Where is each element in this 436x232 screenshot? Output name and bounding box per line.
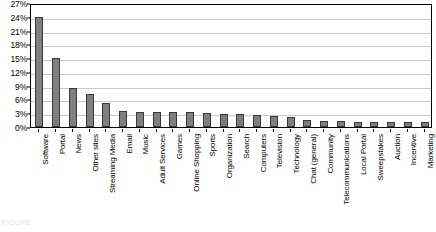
x-axis-tick-label: Email [126,134,134,154]
x-axis-tick-mark [424,129,425,132]
x-axis-tick-label: Community [327,134,335,174]
y-axis-tick-label: 12% [11,69,27,78]
bar [69,88,77,127]
bar [220,114,228,127]
x-axis-tick-mark [373,129,374,132]
x-axis-tick-mark [89,129,90,132]
x-axis-tick-mark [122,129,123,132]
y-axis-tick-label: 9% [15,82,27,91]
x-axis-tick-label: Search [243,134,251,159]
x-axis-tick-label: Incentive [410,134,418,165]
bar [186,112,194,127]
bar [387,122,395,128]
x-axis-tick-label: Auction [394,134,402,160]
x-axis-tick-mark [273,129,274,132]
y-axis-tick-label: 18% [11,41,27,50]
x-axis-tick-mark [357,129,358,132]
x-axis-tick-mark [256,129,257,132]
x-axis-tick-mark [189,129,190,132]
bar [35,17,43,127]
x-axis-tick-label: Adult Services [159,134,167,184]
bar [337,121,345,127]
plot-area [30,4,432,128]
x-axis-tick-label: Music [142,134,150,154]
bar [153,112,161,127]
x-axis-tick-label: Streaming Media [109,134,117,193]
bar [320,121,328,127]
x-axis-tick-mark [156,129,157,132]
x-axis-tick-mark [172,129,173,132]
bar [119,111,127,127]
x-axis-tick-label: Chat (general) [310,134,318,184]
bar [236,114,244,127]
bar [102,103,110,127]
y-axis-tick-label: 0% [15,124,27,133]
bar [52,58,60,127]
x-axis-tick-mark [55,129,56,132]
x-axis-tick-label: Marketing [427,134,435,168]
x-axis-tick-mark [306,129,307,132]
y-axis: 0%3%6%9%12%15%18%21%24%27% [0,4,30,128]
figure-caption: FIGURE [2,219,31,227]
y-axis-tick-label: 6% [15,96,27,105]
x-axis-tick-mark [38,129,39,132]
y-axis-tick-label: 27% [11,0,27,8]
bar [169,112,177,127]
x-axis-tick-mark [223,129,224,132]
x-axis-tick-mark [206,129,207,132]
x-axis-tick-label: Local Portal [360,134,368,175]
x-axis-tick-label: News [75,134,83,154]
y-axis-tick-label: 15% [11,55,27,64]
x-axis-tick-mark [390,129,391,132]
bar [136,112,144,127]
x-axis-tick-label: Organization [226,134,234,178]
y-axis-tick-label: 21% [11,27,27,36]
x-axis-labels: SoftwarePortalNewsOther sitesStreaming M… [30,129,432,227]
x-axis-tick-mark [239,129,240,132]
x-axis-tick-mark [290,129,291,132]
x-axis-tick-label: Sports [209,134,217,157]
x-axis-tick-mark [407,129,408,132]
bar [370,122,378,128]
y-axis-tick-label: 24% [11,14,27,23]
x-axis-tick-label: Television [276,134,284,168]
x-axis-tick-mark [340,129,341,132]
x-axis-tick-label: Portal [59,134,67,154]
bar [421,122,429,127]
x-axis-tick-mark [105,129,106,132]
x-axis-tick-label: Technology [293,134,301,173]
x-axis-tick-mark [323,129,324,132]
x-axis-tick-label: Online Shopping [193,134,201,192]
bar [404,122,412,127]
x-axis-tick-mark [72,129,73,132]
y-axis-tick-label: 3% [15,110,27,119]
x-axis-tick-label: Sweepstakes [377,134,385,180]
x-axis-tick-label: Telecommunications [343,134,351,205]
bar [86,94,94,127]
figure-container: 0%3%6%9%12%15%18%21%24%27% SoftwarePorta… [0,0,436,232]
bar [354,122,362,128]
x-axis-tick-label: Other sites [92,134,100,172]
bar [287,117,295,127]
bar [270,116,278,127]
x-axis-tick-mark [139,129,140,132]
bar [203,113,211,127]
bar [253,115,261,127]
bar [303,120,311,127]
bar-series [31,5,431,127]
x-axis-tick-label: Games [176,134,184,159]
x-axis-tick-label: Software [42,134,50,165]
x-axis-tick-label: Computers [260,134,268,172]
